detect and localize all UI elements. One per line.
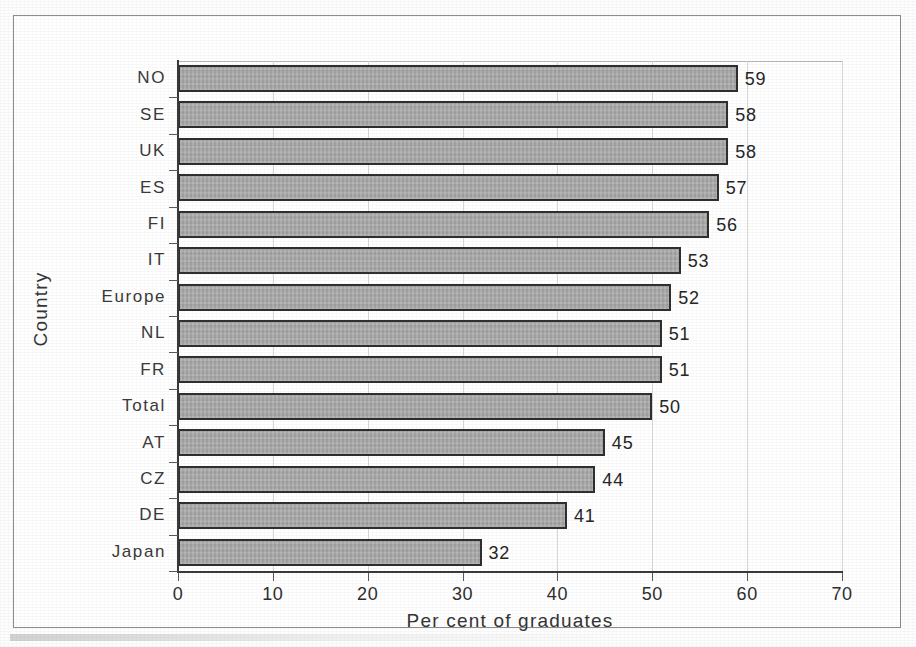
bar-nl[interactable] [178,320,662,347]
scanned-page: 5958585756535251515045444132 NOSEUKESFII… [0,0,916,647]
bar-uk[interactable] [178,138,728,165]
category-label-se: SE [26,105,166,125]
figure-frame: 5958585756535251515045444132 NOSEUKESFII… [13,15,901,628]
x-axis-tick [747,573,748,581]
bar-row: 52 [178,280,842,316]
bar-es[interactable] [178,174,719,201]
x-axis-tick [178,573,179,581]
bar-de[interactable] [178,502,567,529]
bar-value-label: 57 [726,178,748,199]
bar-cz[interactable] [178,466,595,493]
bar-it[interactable] [178,247,681,274]
bar-value-label: 52 [678,288,700,309]
y-axis-tick [169,97,178,98]
category-label-de: DE [26,505,166,525]
x-axis-tick [557,573,558,581]
category-label-es: ES [26,178,166,198]
bar-row: 57 [178,170,842,206]
y-axis-tick [169,352,178,353]
x-axis-line [177,571,843,573]
bar-total[interactable] [178,393,652,420]
bar-row: 44 [178,462,842,498]
x-axis-tick-label-40: 40 [533,584,581,605]
bar-value-label: 59 [745,69,767,90]
x-axis-tick [652,573,653,581]
x-axis-tick-label-30: 30 [439,584,487,605]
bar-row: 53 [178,243,842,279]
bar-value-label: 44 [602,470,624,491]
scan-edge-smudge [10,634,620,641]
x-axis-tick-label-0: 0 [154,584,202,605]
y-axis-title: Country [30,239,52,379]
y-axis-tick [169,462,178,463]
y-axis-tick [169,134,178,135]
x-axis-tick-label-50: 50 [628,584,676,605]
category-label-fi: FI [26,214,166,234]
bar-value-label: 56 [716,215,738,236]
gridline-70 [842,61,843,571]
category-label-cz: CZ [26,469,166,489]
bar-se[interactable] [178,101,728,128]
bar-europe[interactable] [178,284,671,311]
bar-row: 58 [178,134,842,170]
x-axis-tick-label-10: 10 [249,584,297,605]
bar-value-label: 41 [574,506,596,527]
x-axis-title: Per cent of graduates [177,610,843,632]
x-axis-tick [842,573,843,581]
bar-value-label: 53 [688,251,710,272]
y-axis-tick [169,571,178,572]
bar-value-label: 32 [489,543,511,564]
y-axis-tick [169,535,178,536]
category-label-japan: Japan [26,542,166,562]
y-axis-tick [169,207,178,208]
y-axis-tick [169,425,178,426]
bar-value-label: 51 [669,324,691,345]
bar-row: 32 [178,535,842,571]
bar-row: 51 [178,316,842,352]
y-axis-tick [169,243,178,244]
y-axis-tick [169,389,178,390]
category-label-uk: UK [26,141,166,161]
x-axis-tick [273,573,274,581]
bar-no[interactable] [178,65,738,92]
bar-row: 59 [178,61,842,97]
y-axis-tick [169,498,178,499]
bar-row: 41 [178,498,842,534]
category-label-at: AT [26,433,166,453]
bar-row: 58 [178,97,842,133]
bar-value-label: 45 [612,433,634,454]
bar-fi[interactable] [178,211,709,238]
y-axis-tick [169,170,178,171]
plot-area: 5958585756535251515045444132 [178,61,842,571]
bar-value-label: 58 [735,105,757,126]
x-axis-tick [368,573,369,581]
bar-row: 50 [178,389,842,425]
bar-value-label: 58 [735,142,757,163]
bar-fr[interactable] [178,356,662,383]
bar-row: 56 [178,207,842,243]
x-axis-tick-label-60: 60 [723,584,771,605]
category-label-total: Total [26,396,166,416]
bar-at[interactable] [178,429,605,456]
bar-japan[interactable] [178,539,482,566]
x-axis-tick-label-70: 70 [818,584,866,605]
bar-value-label: 50 [659,397,681,418]
bar-row: 51 [178,352,842,388]
category-label-no: NO [26,68,166,88]
y-axis-tick [169,280,178,281]
x-axis-tick [463,573,464,581]
bar-row: 45 [178,425,842,461]
y-axis-tick [169,316,178,317]
bar-value-label: 51 [669,360,691,381]
x-axis-tick-label-20: 20 [344,584,392,605]
